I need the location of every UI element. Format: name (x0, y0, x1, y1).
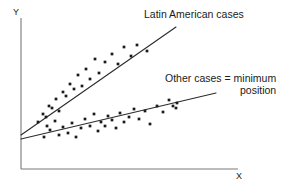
data-point (100, 121, 103, 124)
other-cases-label-line2: position (165, 84, 276, 96)
y-axis-label: Y (13, 8, 19, 17)
data-point (94, 58, 97, 61)
data-point (49, 129, 52, 132)
data-point (146, 50, 149, 53)
data-point (73, 88, 76, 91)
data-point (55, 98, 58, 101)
other-cases-fit-line (21, 93, 216, 139)
other-cases-points-group (43, 99, 179, 139)
data-point (98, 72, 101, 75)
data-point (84, 118, 87, 121)
data-point (93, 113, 96, 116)
other-cases-label-line1: Other cases = minimum (165, 72, 276, 84)
data-point (45, 116, 48, 119)
data-point (111, 53, 114, 56)
latin-american-points-group (37, 44, 149, 124)
scatter-chart-figure: Y X Latin American cases Other cases = m… (0, 0, 303, 187)
data-point (168, 99, 171, 102)
data-point (89, 78, 92, 81)
data-point (172, 105, 175, 108)
data-point (176, 102, 179, 105)
x-axis-label: X (236, 172, 242, 181)
data-point (162, 111, 165, 114)
data-point (69, 83, 72, 86)
data-point (144, 110, 147, 113)
data-point (117, 63, 120, 66)
data-point (85, 68, 88, 71)
data-point (81, 85, 84, 88)
data-point (104, 125, 107, 128)
data-point (80, 127, 83, 130)
data-point (58, 110, 61, 113)
data-point (51, 107, 54, 110)
data-point (119, 112, 122, 115)
data-point (54, 120, 57, 123)
data-point (75, 136, 78, 139)
data-point (138, 118, 141, 121)
data-point (48, 105, 51, 108)
data-point (107, 115, 110, 118)
data-point (42, 113, 45, 116)
data-point (37, 121, 40, 124)
latin-american-cases-label: Latin American cases (144, 8, 244, 20)
data-point (77, 74, 80, 77)
other-cases-label: Other cases = minimumposition (165, 72, 276, 96)
data-point (115, 127, 118, 130)
data-point (136, 44, 139, 47)
data-point (111, 119, 114, 122)
data-point (156, 105, 159, 108)
data-point (104, 61, 107, 64)
data-point (71, 122, 74, 125)
data-point (89, 125, 92, 128)
data-point (175, 107, 178, 110)
data-point (133, 108, 136, 111)
data-point (149, 123, 152, 126)
data-point (65, 95, 68, 98)
data-point (46, 125, 49, 128)
data-point (130, 55, 133, 58)
data-point (123, 46, 126, 49)
data-point (62, 91, 65, 94)
data-point (97, 130, 100, 133)
data-point (58, 134, 61, 137)
data-point (62, 126, 65, 129)
latin-american-fit-line (21, 27, 176, 135)
data-point (43, 136, 46, 139)
data-point (67, 132, 70, 135)
data-point (128, 116, 131, 119)
data-point (123, 121, 126, 124)
